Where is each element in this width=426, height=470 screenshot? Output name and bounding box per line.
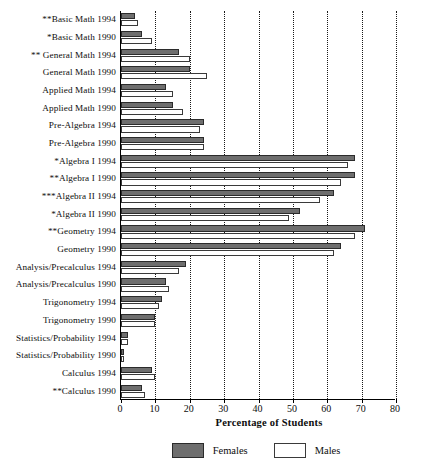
bar-males [121, 144, 204, 150]
females-swatch-icon [172, 443, 204, 458]
bar-males [121, 197, 320, 203]
bar-row [121, 243, 395, 256]
bar-row [121, 261, 395, 274]
bar-females [121, 349, 124, 355]
gridline [396, 11, 397, 399]
bar-females [121, 208, 300, 214]
bar-males [121, 20, 138, 26]
bar-row [121, 314, 395, 327]
chart-legend: Females Males [0, 443, 426, 458]
category-label: General Math 1990 [43, 67, 116, 77]
bar-row [121, 225, 395, 238]
bar-males [121, 321, 155, 327]
category-label: Statistics/Probability 1994 [16, 333, 116, 343]
x-tick-label: 20 [174, 403, 204, 414]
bar-females [121, 190, 334, 196]
category-label: Pre-Algebra 1990 [49, 138, 116, 148]
category-label: Trigonometry 1994 [43, 297, 116, 307]
x-tick-label: 50 [277, 403, 307, 414]
category-label: *Algebra I 1994 [54, 156, 116, 166]
bar-males [121, 126, 200, 132]
bar-males [121, 91, 173, 97]
category-label: *Algebra II 1990 [51, 209, 116, 219]
category-label: Applied Math 1990 [42, 103, 116, 113]
bar-row [121, 119, 395, 132]
bar-females [121, 225, 365, 231]
bar-females [121, 261, 186, 267]
category-label: Applied Math 1994 [42, 85, 116, 95]
bar-females [121, 66, 190, 72]
category-label: **Calculus 1990 [52, 386, 116, 396]
bar-females [121, 13, 135, 19]
bar-females [121, 278, 166, 284]
bar-males [121, 250, 334, 256]
x-tick-label: 70 [346, 403, 376, 414]
bar-females [121, 49, 179, 55]
bar-females [121, 31, 142, 37]
bar-row [121, 332, 395, 345]
bar-females [121, 332, 128, 338]
x-tick-label: 10 [139, 403, 169, 414]
x-tick-label: 80 [380, 403, 410, 414]
category-label: Statistics/Probability 1990 [16, 350, 116, 360]
plot-area [120, 11, 395, 400]
bar-females [121, 243, 341, 249]
bar-males [121, 162, 348, 168]
bar-males [121, 233, 355, 239]
bar-males [121, 339, 128, 345]
category-label: **Geometry 1994 [48, 226, 116, 236]
bar-females [121, 137, 204, 143]
bar-males [121, 215, 289, 221]
bar-rows [121, 11, 395, 399]
bar-row [121, 367, 395, 380]
bar-row [121, 102, 395, 115]
category-label: Geometry 1990 [57, 244, 116, 254]
bar-females [121, 155, 355, 161]
bar-males [121, 303, 159, 309]
males-swatch-icon [274, 443, 306, 458]
bar-row [121, 137, 395, 150]
category-label: Calculus 1994 [62, 368, 116, 378]
legend-item-males: Males [274, 443, 341, 458]
bar-row [121, 278, 395, 291]
bar-chart: **Basic Math 1994*Basic Math 1990** Gene… [0, 0, 426, 470]
bar-females [121, 102, 173, 108]
bar-row [121, 296, 395, 309]
category-label: **Algebra I 1990 [50, 173, 116, 183]
bar-row [121, 385, 395, 398]
bar-row [121, 208, 395, 221]
x-axis-title-text: Percentage of Students [104, 417, 323, 428]
bar-females [121, 296, 162, 302]
category-label: ** General Math 1994 [31, 50, 116, 60]
bar-row [121, 13, 395, 26]
category-label: *Basic Math 1990 [47, 32, 116, 42]
bar-row [121, 190, 395, 203]
category-label: Trigonometry 1990 [43, 315, 116, 325]
bar-row [121, 349, 395, 362]
legend-item-females: Females [172, 443, 248, 458]
x-axis-title: Percentage of Students [0, 417, 426, 428]
legend-label-males: Males [315, 445, 341, 456]
x-tick-label: 40 [243, 403, 273, 414]
x-tick-label: 0 [105, 403, 135, 414]
bar-males [121, 374, 155, 380]
x-tick-label: 30 [208, 403, 238, 414]
bar-males [121, 392, 145, 398]
category-label: Analysis/Precalculus 1990 [16, 279, 116, 289]
bar-males [121, 109, 183, 115]
bar-row [121, 49, 395, 62]
bar-males [121, 73, 207, 79]
legend-label-females: Females [213, 445, 248, 456]
bar-row [121, 172, 395, 185]
bar-males [121, 38, 152, 44]
category-label: Pre-Algebra 1994 [49, 120, 116, 130]
bar-row [121, 31, 395, 44]
category-label: ***Algebra II 1994 [42, 191, 116, 201]
bar-males [121, 356, 124, 362]
bar-females [121, 84, 166, 90]
category-label: Analysis/Precalculus 1994 [16, 262, 116, 272]
bar-males [121, 268, 179, 274]
x-axis-tick-labels: 01020304050607080 [0, 403, 426, 417]
bar-females [121, 119, 204, 125]
bar-males [121, 286, 169, 292]
